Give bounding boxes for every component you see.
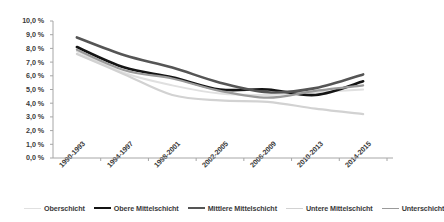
series-lines — [77, 37, 363, 114]
legend-item[interactable]: Oberschicht — [24, 204, 85, 213]
chart-legend: OberschichtObere MittelschichtMittlere M… — [24, 201, 428, 215]
legend-item[interactable]: Untere Mittelschicht — [286, 204, 373, 213]
legend-swatch — [94, 207, 111, 209]
legend-swatch — [24, 208, 41, 209]
legend-label: Obere Mittelschicht — [114, 204, 179, 213]
legend-swatch — [188, 207, 205, 209]
legend-label: Oberschicht — [44, 204, 85, 213]
legend-swatch — [286, 208, 303, 209]
legend-label: Unterschicht — [402, 204, 444, 213]
series-line — [77, 50, 363, 98]
series-line — [77, 54, 363, 114]
legend-item[interactable]: Obere Mittelschicht — [94, 204, 179, 213]
legend-item[interactable]: Unterschicht — [382, 204, 444, 213]
legend-label: Untere Mittelschicht — [306, 204, 373, 213]
legend-swatch — [382, 208, 399, 209]
legend-item[interactable]: Mittlere Mittelschicht — [188, 204, 277, 213]
legend-label: Mittlere Mittelschicht — [208, 204, 277, 213]
